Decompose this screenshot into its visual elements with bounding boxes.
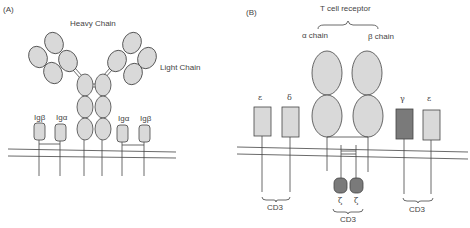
heavy-chain-label: Heavy Chain [70,19,116,28]
epsilon-label: ε [258,93,262,102]
beta-chain-label: β chain [368,32,394,41]
light-chain-label: Light Chain [160,63,200,72]
diagram-canvas [0,0,470,228]
membrane-line-top [8,149,176,152]
heavy-chain-domain [77,74,93,96]
heavy-chain-domain [95,74,111,96]
cd3-delta-box [282,107,299,137]
cd3-epsilon-box [423,110,440,140]
cd3-label: CD3 [340,215,356,224]
ig-label: Igβ [140,114,151,123]
delta-label: δ [287,93,292,102]
membrane-line-bottom [237,154,468,159]
cd3-epsilon-box [254,107,271,136]
panel-b-tag: (B) [246,8,257,17]
zeta-chain [350,178,363,193]
heavy-chain-domain [77,96,93,118]
ig-beta-box [34,123,45,140]
ig-label: Igα [118,114,129,123]
panel-a-tag: (A) [3,5,14,14]
cd3-gamma-box [396,109,413,139]
ig-label: Igα [56,113,67,122]
tcr-brace [318,21,378,29]
heavy-chain-domain [77,118,93,140]
zeta-label: ζ [338,196,342,205]
alpha-chain-domain [312,51,342,95]
gamma-label: γ [400,94,405,103]
zeta-label: ζ [354,196,358,205]
membrane-line-bottom [8,156,176,158]
alpha-chain-label: α chain [302,31,328,40]
zeta-chain [334,178,347,193]
cd3-label: CD3 [409,205,425,214]
beta-chain-domain [353,95,383,137]
tcr-title: T cell receptor [320,4,371,13]
heavy-chain-domain [95,96,111,118]
heavy-chain-domain [95,118,111,140]
beta-chain-domain [352,51,382,95]
ig-label: Igβ [34,113,45,122]
ig-alpha-box [55,124,66,141]
cd3-label: CD3 [267,203,283,212]
alpha-chain-domain [312,95,342,137]
ig-beta-box [139,125,150,142]
ig-alpha-box [117,125,128,142]
epsilon-label: ε [427,94,431,103]
